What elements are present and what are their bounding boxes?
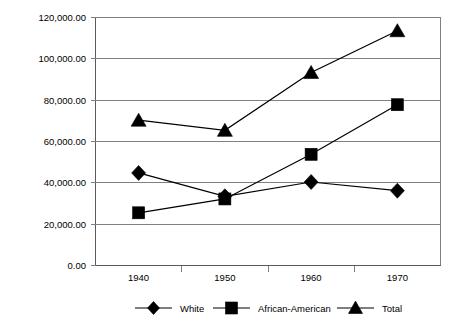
y-label-20000: 20,000.00 <box>44 219 86 230</box>
y-label-120000: 120,000.00 <box>38 12 86 23</box>
square-marker <box>305 148 317 160</box>
y-label-60000: 60,000.00 <box>44 136 86 147</box>
y-axis-labels: 120,000.00 100,000.00 80,000.00 60,000.0… <box>38 12 86 271</box>
square-marker <box>391 99 403 111</box>
legend-label-white: White <box>180 303 204 314</box>
y-label-100000: 100,000.00 <box>38 53 86 64</box>
x-label-1940: 1940 <box>128 272 149 283</box>
chart-canvas: 120,000.00 100,000.00 80,000.00 60,000.0… <box>0 0 454 327</box>
square-marker <box>219 193 231 205</box>
x-axis-ticks <box>182 266 355 272</box>
legend-label-total: Total <box>382 303 402 314</box>
square-icon <box>226 302 238 314</box>
x-label-1950: 1950 <box>214 272 235 283</box>
diamond-icon <box>148 302 160 315</box>
y-label-40000: 40,000.00 <box>44 177 86 188</box>
legend-item-total[interactable]: Total <box>337 301 402 314</box>
legend: White African-American Total <box>135 301 402 315</box>
legend-item-african-american[interactable]: African-American <box>213 302 331 314</box>
y-label-0: 0.00 <box>68 260 87 271</box>
legend-label-african-american: African-American <box>258 303 331 314</box>
square-marker <box>133 207 145 219</box>
legend-item-white[interactable]: White <box>135 302 204 315</box>
y-axis-ticks <box>91 18 96 266</box>
y-label-80000: 80,000.00 <box>44 95 86 106</box>
x-label-1970: 1970 <box>387 272 408 283</box>
x-axis-labels: 1940 1950 1960 1970 <box>128 272 408 283</box>
line-chart: 120,000.00 100,000.00 80,000.00 60,000.0… <box>0 0 454 327</box>
triangle-icon <box>349 301 363 314</box>
x-label-1960: 1960 <box>301 272 322 283</box>
